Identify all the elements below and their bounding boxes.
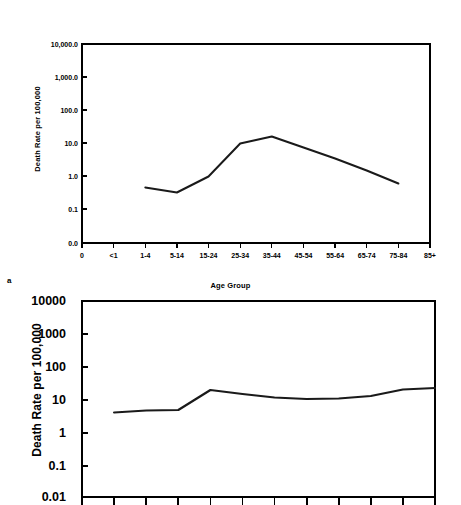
figure-a-xtick-35-44: 35-44 — [255, 252, 289, 259]
figure-a-xtick-15-24: 15-24 — [192, 252, 226, 259]
figure-b-x-tickmarks — [82, 497, 435, 505]
figure-a-x-axis-title: Age Group — [0, 281, 461, 290]
figure-a-xtick-lt1: <1 — [97, 252, 131, 259]
cropped-header-text-sliver: ·· ···· ··· ···· ···· — [0, 0, 461, 8]
figure-b-data-line — [114, 388, 435, 413]
figure-a-xtick-25-34: 25-34 — [223, 252, 257, 259]
cropped-header-text: ·· ···· ··· ···· ···· — [8, 0, 75, 3]
figure-a-xtick-1-4: 1-4 — [128, 252, 162, 259]
figure-a-xtick-45-54: 45-54 — [287, 252, 321, 259]
figure-b-plot-frame — [82, 301, 435, 497]
figure-b-plot — [0, 290, 461, 505]
figure-b-chart: Death Rate per 100,000 10000 1000 100 10… — [0, 290, 461, 505]
figure-a-panel-letter: a — [7, 276, 11, 285]
figure-a-xtick-0: 0 — [65, 252, 99, 259]
figure-a-xtick-75-84: 75-84 — [381, 252, 415, 259]
figure-a-chart: Death Rate per 100,000 10,000.0 1,000.0 … — [0, 14, 461, 290]
figure-a-plot-frame — [82, 44, 430, 243]
figure-a-xtick-85plus: 85+ — [413, 252, 447, 259]
figure-a-xtick-65-74: 65-74 — [350, 252, 384, 259]
figure-a-xtick-5-14: 5-14 — [160, 252, 194, 259]
figure-a-data-line — [145, 137, 398, 193]
figure-a-xtick-55-64: 55-64 — [318, 252, 352, 259]
figure-a-plot — [0, 14, 461, 290]
